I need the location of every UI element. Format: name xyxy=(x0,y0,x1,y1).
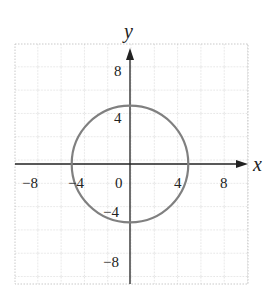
y-tick: −8 xyxy=(103,254,119,270)
x-tick: −4 xyxy=(68,175,84,191)
x-axis-label: x xyxy=(252,153,262,175)
x-tick: 0 xyxy=(115,175,123,191)
y-tick: 8 xyxy=(114,63,122,79)
y-axis-label: y xyxy=(122,20,133,43)
x-tick: 4 xyxy=(174,175,182,191)
x-tick: −8 xyxy=(22,175,38,191)
x-tick: 8 xyxy=(220,175,228,191)
y-tick: −4 xyxy=(103,204,119,220)
y-tick: 4 xyxy=(114,110,122,126)
coordinate-plane: x y −8 −4 0 4 8 8 4 −4 −8 xyxy=(0,0,276,295)
